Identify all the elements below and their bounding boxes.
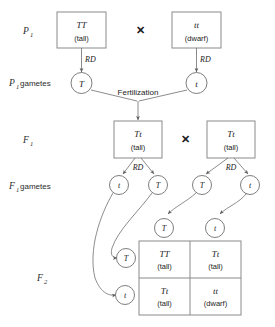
punnett-row-header-0-label: T (124, 254, 129, 263)
p1-meiosis-arrow-right: RD (197, 48, 211, 72)
p1-meiosis-arrow-left: RD (82, 48, 96, 72)
f1-offspring-right-phenotype: (tall) (224, 143, 239, 152)
stage-label-f1-base: F (22, 135, 29, 145)
f1-gamete-1: t (110, 176, 129, 195)
f1-offspring-box-right: Tt (tall) (207, 121, 255, 158)
punnett-cell-1-0-phenotype: (tall) (157, 299, 172, 308)
genetics-cross-diagram: P 1 P 1 gametes F 1 F 1 gametes F 2 TT (… (0, 0, 275, 327)
stage-label-f1-gametes-base: F (8, 181, 15, 191)
punnett-square: TT (tall) Tt (tall) Tt (tall) tt (dwarf) (139, 241, 241, 315)
stage-label-p1-gametes-base: P (8, 78, 15, 88)
connector-gamete1-to-row-t (93, 193, 116, 295)
p1-parent-box-dwarf: tt (dwarf) (172, 12, 221, 48)
f1-gamete-2-label: T (156, 181, 161, 190)
p1-parent-dwarf-phenotype: (dwarf) (185, 34, 209, 43)
f1-offspring-left-phenotype: (tall) (131, 143, 146, 152)
stage-label-p1: P 1 (22, 26, 33, 38)
connector-gamete3-to-col-T (168, 193, 196, 214)
punnett-column-header-0-label: T (162, 224, 167, 233)
f1-gamete-3: T (193, 176, 212, 195)
stage-label-f1-gametes-suffix: gametes (20, 182, 51, 191)
p1-gamete-t: t (186, 73, 207, 94)
punnett-cell-0-0-phenotype: (tall) (157, 262, 172, 271)
f1-offspring-right-genotype: Tt (227, 129, 235, 139)
stage-label-f2-sub: 2 (44, 278, 48, 285)
stage-label-f2: F 2 (36, 273, 48, 285)
rd-label-p1-left: RD (84, 55, 96, 64)
f1-meiosis-right: RD (206, 158, 248, 174)
punnett-cell-0-0-genotype: TT (159, 249, 170, 259)
f1-gamete-4: t (241, 176, 260, 195)
stage-label-f1-gametes: F 1 gametes (8, 181, 51, 193)
stage-label-f1-gametes-sub: 1 (16, 186, 19, 193)
stage-label-p1-gametes-sub: 1 (16, 83, 19, 90)
stage-label-p1-gametes: P 1 gametes (8, 78, 51, 90)
fertilization-connector: Fertilization (91, 88, 187, 120)
p1-gamete-T: T (71, 73, 92, 94)
punnett-cell-0-1-genotype: Tt (212, 249, 220, 259)
cross-symbol-f1: ✕ (181, 133, 190, 145)
rd-label-f1-left: RD (132, 163, 144, 172)
punnett-column-header-1: t (206, 219, 225, 238)
f1-gamete-2: T (149, 176, 168, 195)
stage-label-p1-gametes-suffix: gametes (20, 79, 51, 88)
punnett-cell-1-1-genotype: tt (213, 286, 219, 296)
stage-label-f1-sub: 1 (30, 140, 33, 147)
cross-symbol-p1: ✕ (136, 24, 145, 36)
punnett-cell-1-1-phenotype: (dwarf) (204, 299, 228, 308)
stage-label-f2-base: F (36, 273, 43, 283)
p1-parent-tall-genotype: TT (76, 20, 87, 30)
punnett-row-header-1: t (116, 286, 135, 305)
punnett-cell-0-1-phenotype: (tall) (208, 262, 223, 271)
p1-parent-box-tall: TT (tall) (57, 12, 106, 48)
stage-label-f1: F 1 (22, 135, 33, 147)
fertilization-label: Fertilization (118, 88, 159, 97)
rd-label-p1-right: RD (199, 55, 211, 64)
stage-label-p1-sub: 1 (30, 31, 33, 38)
stage-label-p1-base: P (22, 26, 29, 36)
f1-meiosis-left: RD (123, 158, 154, 174)
rd-label-f1-right: RD (225, 163, 237, 172)
f1-offspring-box-left: Tt (tall) (114, 121, 162, 158)
punnett-column-header-0: T (155, 219, 174, 238)
punnett-cell-1-0-genotype: Tt (161, 286, 169, 296)
punnett-row-header-0: T (117, 249, 136, 268)
f1-gamete-3-label: T (200, 181, 205, 190)
f1-offspring-left-genotype: Tt (134, 129, 142, 139)
f1-offspring-box-left-frame (114, 121, 162, 158)
connector-gamete4-to-col-t (220, 193, 247, 214)
f1-offspring-box-right-frame (207, 121, 255, 158)
p1-parent-dwarf-genotype: tt (194, 20, 200, 30)
p1-parent-tall-phenotype: (tall) (74, 34, 89, 43)
